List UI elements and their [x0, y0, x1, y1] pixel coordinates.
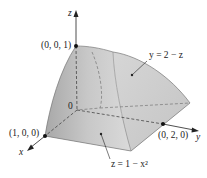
point-x-label: (1, 0, 0) — [9, 129, 39, 139]
point-z-marker — [74, 44, 78, 48]
cylinder-leader-dot — [100, 133, 102, 135]
diagram-canvas — [0, 0, 207, 178]
point-y-label: (0, 2, 0) — [158, 131, 188, 141]
point-y-marker — [161, 122, 165, 126]
x-axis-label: x — [19, 148, 23, 158]
plane-surface-label: y = 2 − z — [149, 51, 183, 61]
z-axis-arrow-icon — [74, 10, 79, 17]
origin-label: 0 — [68, 102, 73, 112]
plane-leader-dot — [131, 74, 133, 76]
cylinder-surface-label: z = 1 − x² — [111, 160, 148, 170]
point-z-label: (0, 0, 1) — [41, 41, 71, 51]
solid-region-diagram: z (0, 0, 1) y = 2 − z 0 (1, 0, 0) x (0, … — [0, 0, 207, 178]
y-axis-label: y — [196, 133, 200, 143]
point-x-marker — [43, 134, 47, 138]
z-axis-label: z — [68, 9, 72, 19]
